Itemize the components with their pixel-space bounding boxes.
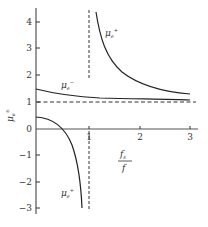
x-tick-label: 3 — [187, 132, 193, 142]
y-tick-label: 0 — [26, 124, 32, 134]
x-tick-label: 2 — [137, 132, 143, 142]
label-mu-plus-lower: μe+ — [61, 187, 74, 199]
y-tick-labels: 4 3 2 1 0 −1 −2 −3 — [19, 17, 33, 213]
y-tick-label: 2 — [26, 70, 32, 80]
y-tick-label: 3 — [26, 43, 32, 53]
x-axis-label-numerator: fs — [119, 149, 126, 160]
x-axis-label: fs f — [118, 149, 132, 173]
y-tick-label: −3 — [19, 203, 33, 213]
curve-mu-plus-upper — [96, 12, 190, 94]
label-mu-minus: μe− — [61, 79, 74, 91]
curve-mu-plus-lower — [36, 117, 82, 208]
y-tick-label: 4 — [26, 17, 32, 27]
y-tick-label: −2 — [19, 177, 32, 187]
y-tick-label: −1 — [19, 150, 32, 160]
chart: 4 3 2 1 0 −1 −2 −3 1 2 3 μe+ μe− μe+ μe±… — [0, 0, 208, 227]
y-tick-label: 1 — [26, 97, 32, 107]
y-ticks — [36, 22, 40, 208]
x-axis-label-denominator: f — [121, 163, 127, 173]
y-axis-label: μe± — [4, 109, 16, 122]
x-tick-labels: 1 2 3 — [86, 132, 193, 142]
label-mu-plus-upper: μe+ — [105, 27, 118, 39]
